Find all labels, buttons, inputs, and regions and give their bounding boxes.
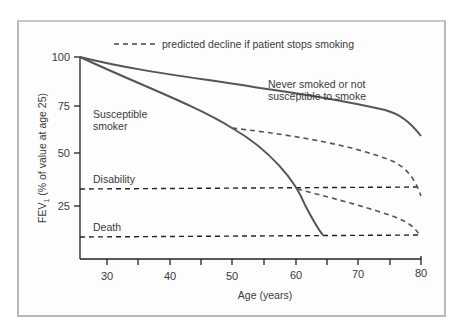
x-tick-70: 70 [352, 268, 364, 280]
x-tick-50: 50 [226, 270, 238, 282]
chart-svg: predicted decline if patient stops smoki… [0, 0, 466, 336]
x-axis-title: Age (years) [238, 289, 292, 301]
y-tick-75: 75 [58, 100, 70, 112]
y-tick-50: 50 [58, 147, 70, 159]
y-tick-25: 25 [58, 200, 70, 212]
susceptible-label-2: smoker [93, 120, 128, 132]
y-ticks [74, 57, 80, 206]
x-tick-80: 80 [415, 267, 427, 279]
susceptible-label-1: Susceptible [93, 108, 147, 120]
x-ticks [107, 256, 421, 265]
x-tick-30: 30 [101, 270, 113, 282]
disability-line [80, 187, 421, 189]
never-smoked-curve [80, 57, 421, 136]
legend-label: predicted decline if patient stops smoki… [162, 38, 354, 50]
death-label: Death [93, 221, 121, 233]
x-tick-40: 40 [164, 270, 176, 282]
x-tick-60: 60 [290, 269, 302, 281]
y-tick-100: 100 [52, 51, 70, 63]
never-smoked-label-2: susceptible to smoke [268, 90, 366, 102]
quit-at-50-curve [232, 128, 421, 196]
death-line [80, 235, 421, 237]
y-axis-title: FEV1 (% of value at age 25) [36, 93, 50, 223]
disability-label: Disability [93, 173, 136, 185]
never-smoked-label-1: Never smoked or not [268, 78, 366, 90]
quit-at-60-curve [297, 189, 420, 236]
